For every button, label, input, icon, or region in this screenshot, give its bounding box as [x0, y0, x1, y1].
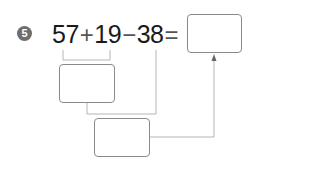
- answer-box[interactable]: [187, 14, 242, 53]
- arrow-up-icon: [212, 54, 217, 61]
- intermediate-box-sum[interactable]: [59, 64, 115, 103]
- intermediate-box-difference[interactable]: [94, 118, 150, 157]
